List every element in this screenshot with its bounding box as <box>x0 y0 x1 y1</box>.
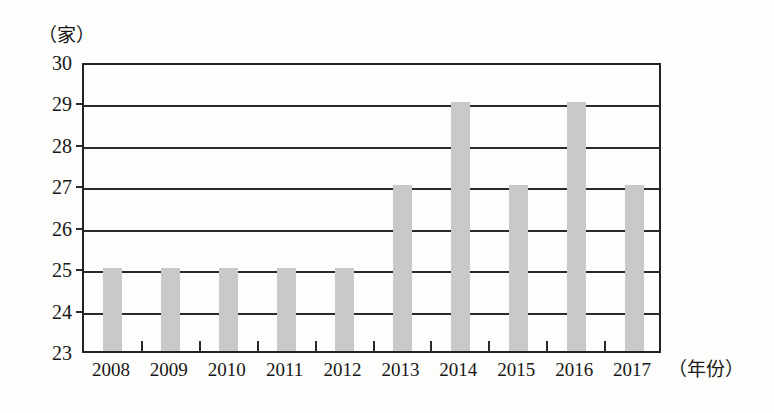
x-tick-mark-6 <box>430 341 432 351</box>
x-tick-mark-1 <box>141 341 143 351</box>
x-tick-mark-9 <box>604 341 606 351</box>
x-tick-mark-5 <box>373 341 375 351</box>
y-tick-label-29: 29 <box>52 94 72 114</box>
x-tick-label-2011: 2011 <box>255 360 315 379</box>
x-tick-label-2015: 2015 <box>486 360 546 379</box>
y-axis-tick-labels: 2324252627282930 <box>0 0 82 413</box>
y-tick-label-30: 30 <box>52 53 72 73</box>
x-axis-unit-label: （年份） <box>668 360 744 379</box>
y-tick-label-24: 24 <box>52 302 72 322</box>
y-tick-label-23: 23 <box>52 343 72 363</box>
x-tick-label-2014: 2014 <box>428 360 488 379</box>
x-tick-mark-8 <box>546 341 548 351</box>
x-tick-mark-4 <box>315 341 317 351</box>
y-tick-label-26: 26 <box>52 219 72 239</box>
x-tick-label-2016: 2016 <box>544 360 604 379</box>
y-tick-label-25: 25 <box>52 260 72 280</box>
chart-canvas: （家） 2324252627282930 2008200920102011201… <box>0 0 774 413</box>
x-tick-mark-2 <box>199 341 201 351</box>
y-tick-label-27: 27 <box>52 177 72 197</box>
x-axis-tick-labels: 2008200920102011201220132014201520162017 <box>82 360 661 390</box>
x-tick-label-2013: 2013 <box>370 360 430 379</box>
x-tick-label-2009: 2009 <box>139 360 199 379</box>
y-tick-label-28: 28 <box>52 136 72 156</box>
x-tick-mark-3 <box>257 341 259 351</box>
x-axis-tick-marks <box>84 65 659 351</box>
x-tick-label-2008: 2008 <box>81 360 141 379</box>
x-tick-label-2010: 2010 <box>197 360 257 379</box>
plot-area <box>82 63 661 353</box>
x-tick-label-2012: 2012 <box>313 360 373 379</box>
x-tick-label-2017: 2017 <box>602 360 662 379</box>
x-tick-mark-7 <box>488 341 490 351</box>
